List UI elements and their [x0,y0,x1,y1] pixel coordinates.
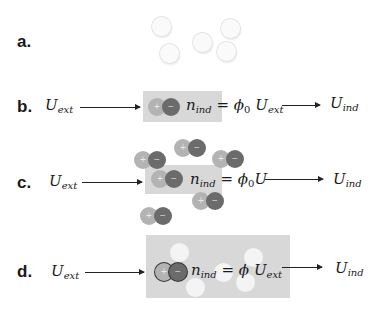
negative-charge-icon: − [148,151,166,169]
dipole-free: + − [174,139,208,157]
dipole-b: + − [148,98,182,116]
output-u-ind-c: Uind [333,170,362,189]
negative-charge-icon: − [162,98,180,116]
output-u-ind-d: Uind [335,259,364,278]
row-label-a: a. [17,32,31,52]
arrow-out-b [282,105,320,106]
negative-charge-icon: − [206,192,224,210]
negative-charge-icon: − [226,150,244,168]
dipole-free: + − [212,150,246,168]
negative-charge-icon: − [154,207,172,225]
equation-c: nind = ϕ0U [190,170,267,189]
row-label-c: c. [17,173,31,193]
equation-d: nind = ϕ Uext [191,261,282,280]
input-u-ext-d: Uext [51,262,79,281]
negative-charge-icon: − [188,139,206,157]
neutral-particle [170,243,189,262]
row-label-d: d. [17,262,32,282]
output-u-ind-b: Uind [330,94,359,113]
input-u-ext-b: Uext [45,96,73,115]
neutral-particle [193,33,212,52]
dipole-free: + − [140,207,174,225]
equation-b: nind = ϕ0 Uext [186,96,283,115]
neutral-particle [152,17,171,36]
negative-charge-icon: − [169,263,187,281]
input-u-ext-c: Uext [49,172,77,191]
dipole-free: + − [192,192,226,210]
neutral-particle [160,44,179,63]
neutral-particle [217,42,236,61]
arrow-in-b [80,107,140,108]
dipole-free: + − [134,151,168,169]
row-label-b: b. [17,97,32,117]
dipole-d: + − [155,263,189,281]
dipole-c-center: + − [151,170,185,188]
arrow-in-c [82,182,142,183]
negative-charge-icon: − [165,170,183,188]
arrow-out-c [265,179,323,180]
neutral-particle [221,19,240,38]
arrow-out-d [282,267,322,268]
arrow-in-d [85,272,144,273]
